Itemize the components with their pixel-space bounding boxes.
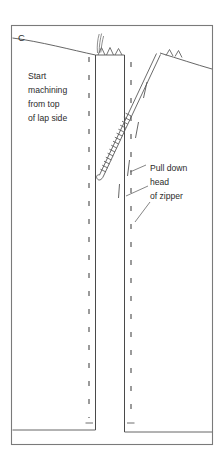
right-upper-seam-curve [160,53,212,69]
left-upper-seam-curve [13,38,96,55]
pull-down-line-1: Pull down [150,163,187,173]
pull-down-leader-lines [126,165,150,222]
start-machining-caption: Start machining from top of lap side [28,71,67,123]
zipper-tape-icon [100,54,161,177]
pull-down-line-3: of zipper [150,191,183,201]
pull-down-line-2: head [150,177,169,187]
start-machining-line-3: from top [28,99,60,109]
zipper-slider-icon [97,175,104,180]
start-machining-line-1: Start [28,71,47,81]
panel-label: C [18,32,25,43]
zipper-teeth-icon [98,48,122,56]
right-panel-fold-marks [119,82,148,198]
start-machining-line-2: machining [28,85,67,95]
pull-down-zipper-caption: Pull down head of zipper [150,163,187,201]
start-machining-line-4: of lap side [28,113,67,123]
zipper-teeth-right-icon [166,50,182,58]
figure-drawing: C Start machining from top of lap side P… [0,0,224,464]
technical-illustration-panel: C Start machining from top of lap side P… [0,0,224,464]
